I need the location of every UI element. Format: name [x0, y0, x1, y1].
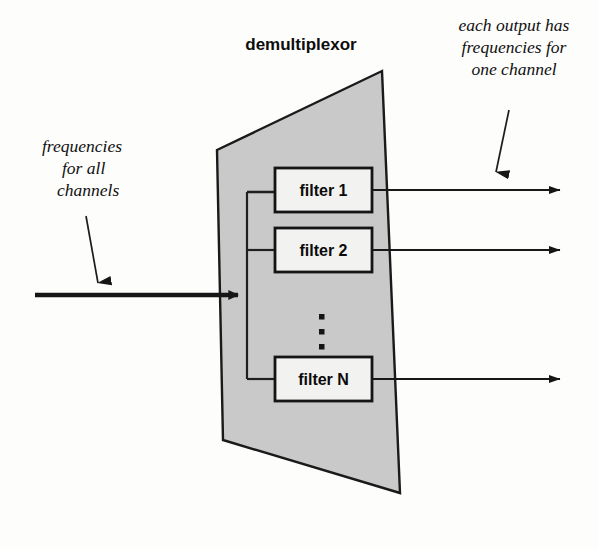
- output-annotation-line-3: one channel: [471, 59, 556, 79]
- filter-box-1[interactable]: filter 1: [275, 168, 372, 212]
- input-annotation-line-2: for all: [62, 158, 105, 178]
- filter-box-n[interactable]: filter N: [275, 357, 372, 401]
- input-annotation: frequencies for all channels: [42, 136, 122, 200]
- input-annotation-line-3: channels: [57, 180, 119, 200]
- vertical-ellipsis-icon: [319, 314, 325, 350]
- page-title: demultiplexor: [245, 35, 357, 54]
- output-annotation: each output has frequencies for one chan…: [459, 15, 570, 79]
- output-annotation-line-2: frequencies for: [462, 37, 567, 57]
- filter-box-1-label: filter 1: [299, 182, 347, 199]
- demultiplexor-figure: filter 1 filter 2 filter N demultiplexor: [0, 0, 598, 549]
- demultiplexor-body: [217, 71, 400, 493]
- demultiplexor-diagram: filter 1 filter 2 filter N demultiplexor: [0, 0, 598, 549]
- output-annotation-line-1: each output has: [459, 15, 570, 35]
- output-annotation-leader-arrow: [496, 110, 509, 172]
- filter-box-n-label: filter N: [298, 371, 349, 388]
- filter-box-2[interactable]: filter 2: [275, 228, 372, 272]
- input-annotation-line-1: frequencies: [42, 136, 122, 156]
- filter-box-2-label: filter 2: [299, 242, 347, 259]
- input-annotation-leader-arrow: [86, 216, 98, 283]
